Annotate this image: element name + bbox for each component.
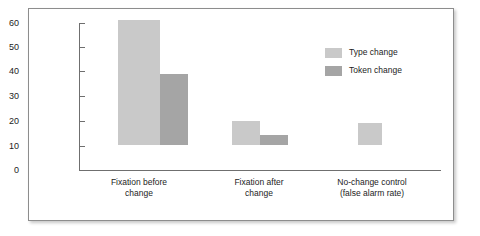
y-axis-line <box>79 23 80 171</box>
x-axis-category-label-fixation-before: Fixation before change <box>89 177 189 198</box>
legend-swatch-icon-type-change <box>325 48 342 58</box>
legend-item-token-change: Token change <box>325 63 402 78</box>
y-axis-tick-20 <box>80 121 85 122</box>
y-axis-label-0: 0 <box>0 166 19 175</box>
y-axis-label-20: 20 <box>0 117 19 126</box>
bar-chart-plot-area: 60 50 40 30 20 10 0 Fixation before chan… <box>29 9 453 220</box>
chart-legend: Type change Token change <box>325 45 402 81</box>
y-axis-label-10: 10 <box>0 142 19 151</box>
bar-token-change-fixation-before <box>160 74 188 145</box>
y-axis-tick-60 <box>80 23 85 24</box>
y-axis-label-40: 40 <box>0 67 19 76</box>
bar-type-change-fixation-before <box>118 20 160 145</box>
bar-token-change-fixation-after <box>260 135 288 145</box>
legend-label-token-change: Token change <box>349 66 402 75</box>
y-axis-label-60: 60 <box>0 19 19 28</box>
figure-frame: 60 50 40 30 20 10 0 Fixation before chan… <box>28 8 454 221</box>
y-axis-label-50: 50 <box>0 43 19 52</box>
y-axis-tick-50 <box>80 47 85 48</box>
x-axis-line <box>79 170 441 171</box>
y-axis-tick-40 <box>80 71 85 72</box>
y-axis-tick-30 <box>80 96 85 97</box>
legend-swatch-icon-token-change <box>325 66 342 76</box>
bar-type-change-no-change-control <box>358 123 382 145</box>
y-axis-label-30: 30 <box>0 92 19 101</box>
legend-item-type-change: Type change <box>325 45 402 60</box>
y-axis-tick-10 <box>80 146 85 147</box>
legend-label-type-change: Type change <box>349 48 398 57</box>
x-axis-category-label-no-change-control: No-change control (false alarm rate) <box>317 177 427 198</box>
x-axis-category-label-fixation-after: Fixation after change <box>209 177 309 198</box>
bar-type-change-fixation-after <box>232 121 260 146</box>
